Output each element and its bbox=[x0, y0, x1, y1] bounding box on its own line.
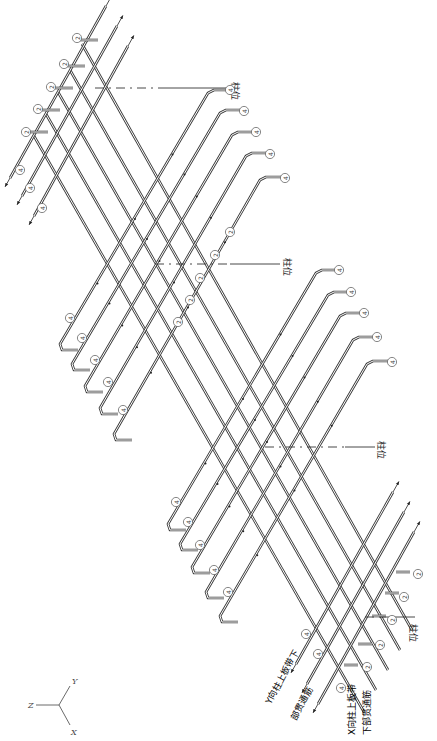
mark-2-circle: 2 bbox=[225, 227, 234, 236]
mark-4-circle: 4 bbox=[336, 683, 345, 692]
svg-text:2: 2 bbox=[48, 85, 55, 89]
svg-text:2: 2 bbox=[197, 276, 204, 280]
svg-text:4: 4 bbox=[225, 590, 232, 594]
mark-4-circle: 4 bbox=[251, 127, 260, 136]
column-position-marker: 柱位 bbox=[155, 258, 293, 276]
mark-4-circle: 4 bbox=[103, 377, 112, 386]
svg-text:4: 4 bbox=[211, 568, 218, 572]
column-position-label: 柱位 bbox=[408, 624, 419, 642]
axis-y-line bbox=[59, 686, 70, 705]
svg-text:4: 4 bbox=[389, 360, 396, 364]
right-hook-bar-4 bbox=[206, 337, 377, 598]
svg-text:2: 2 bbox=[227, 230, 234, 234]
svg-text:4: 4 bbox=[173, 500, 180, 504]
svg-text:2: 2 bbox=[364, 665, 371, 669]
svg-text:4: 4 bbox=[197, 543, 204, 547]
right-hook-bar-3 bbox=[192, 313, 364, 573]
bar-mark-circles: 2222244422222444444444444444444444442222… bbox=[15, 33, 422, 692]
svg-text:4: 4 bbox=[17, 168, 24, 172]
svg-text:4: 4 bbox=[267, 152, 274, 156]
axis-x-label: X bbox=[70, 728, 77, 737]
mark-2-circle: 2 bbox=[195, 273, 204, 282]
svg-text:2: 2 bbox=[35, 107, 42, 111]
svg-text:2: 2 bbox=[415, 572, 422, 576]
svg-text:2: 2 bbox=[74, 36, 81, 40]
svg-text:4: 4 bbox=[105, 380, 112, 384]
mark-4-circle: 4 bbox=[90, 355, 99, 364]
svg-text:4: 4 bbox=[361, 311, 368, 315]
svg-text:2: 2 bbox=[175, 320, 182, 324]
svg-text:2: 2 bbox=[389, 618, 396, 622]
svg-text:4: 4 bbox=[348, 290, 355, 294]
mark-2-circle: 2 bbox=[21, 127, 30, 136]
mark-4-circle: 4 bbox=[37, 203, 46, 212]
mark-2-circle: 2 bbox=[375, 640, 384, 649]
svg-text:2: 2 bbox=[401, 595, 408, 599]
mark-4-circle: 4 bbox=[280, 173, 289, 182]
mark-2-circle: 2 bbox=[362, 662, 371, 671]
svg-text:4: 4 bbox=[253, 130, 260, 134]
long-bar-5 bbox=[34, 136, 364, 712]
long-bar-4 bbox=[46, 114, 376, 690]
mark-2-circle: 2 bbox=[72, 33, 81, 42]
mark-4-circle: 4 bbox=[15, 165, 24, 174]
mark-2-circle: 2 bbox=[46, 82, 55, 91]
svg-text:2: 2 bbox=[377, 643, 384, 647]
mark-4-circle: 4 bbox=[171, 497, 180, 506]
svg-text:2: 2 bbox=[212, 253, 219, 257]
mark-4-circle: 4 bbox=[359, 308, 368, 317]
svg-text:4: 4 bbox=[67, 316, 74, 320]
column-position-label: 柱位 bbox=[376, 441, 387, 459]
mark-4-circle: 4 bbox=[387, 357, 396, 366]
xyz-axis-indicator: YZX bbox=[27, 677, 78, 737]
mark-4-circle: 4 bbox=[265, 149, 274, 158]
mark-4-circle: 4 bbox=[225, 85, 234, 94]
mark-4-circle: 4 bbox=[239, 106, 248, 115]
axis-y-label: Y bbox=[72, 677, 78, 686]
mark-2-circle: 2 bbox=[33, 104, 42, 113]
mark-4-circle: 4 bbox=[195, 540, 204, 549]
svg-text:4: 4 bbox=[338, 686, 345, 690]
svg-text:2: 2 bbox=[61, 62, 68, 66]
svg-text:4: 4 bbox=[303, 632, 310, 636]
rebar-isometric-diagram: 柱位柱位柱位柱位 2222244422222444444444444444444… bbox=[0, 0, 437, 741]
mark-4-circle: 4 bbox=[65, 313, 74, 322]
svg-text:4: 4 bbox=[39, 206, 46, 210]
svg-text:4: 4 bbox=[27, 186, 34, 190]
mark-4-circle: 4 bbox=[183, 517, 192, 526]
svg-text:4: 4 bbox=[185, 520, 192, 524]
svg-text:4: 4 bbox=[315, 652, 322, 656]
svg-text:4: 4 bbox=[241, 109, 248, 113]
mark-4-circle: 4 bbox=[223, 587, 232, 596]
right-hook-bar-2 bbox=[180, 292, 352, 550]
svg-text:4: 4 bbox=[336, 268, 343, 272]
mark-2-circle: 2 bbox=[210, 250, 219, 259]
svg-text:2: 2 bbox=[23, 130, 30, 134]
long-bar-2 bbox=[70, 70, 400, 650]
svg-text:4: 4 bbox=[79, 336, 86, 340]
mark-4-circle: 4 bbox=[25, 183, 34, 192]
svg-text:2: 2 bbox=[187, 298, 194, 302]
mark-2-circle: 2 bbox=[59, 59, 68, 68]
right-hook-bar-1 bbox=[168, 270, 340, 530]
mark-2-circle: 2 bbox=[413, 569, 422, 578]
axis-x-line bbox=[59, 705, 70, 725]
mark-4-circle: 4 bbox=[77, 333, 86, 342]
mark-4-circle: 4 bbox=[313, 649, 322, 658]
svg-text:4: 4 bbox=[227, 88, 234, 92]
mark-2-circle: 2 bbox=[173, 317, 182, 326]
mark-2-circle: 2 bbox=[399, 592, 408, 601]
mark-4-circle: 4 bbox=[301, 629, 310, 638]
mark-2-circle: 2 bbox=[387, 615, 396, 624]
column-position-label: 柱位 bbox=[282, 258, 293, 276]
svg-text:4: 4 bbox=[120, 408, 127, 412]
svg-text:4: 4 bbox=[92, 358, 99, 362]
mark-4-circle: 4 bbox=[372, 332, 381, 341]
mark-4-circle: 4 bbox=[334, 265, 343, 274]
mark-4-circle: 4 bbox=[346, 287, 355, 296]
mark-2-circle: 2 bbox=[185, 295, 194, 304]
mark-4-circle: 4 bbox=[209, 565, 218, 574]
svg-text:4: 4 bbox=[374, 335, 381, 339]
svg-text:4: 4 bbox=[282, 176, 289, 180]
right-hooked-bars-mark-4 bbox=[168, 270, 391, 622]
